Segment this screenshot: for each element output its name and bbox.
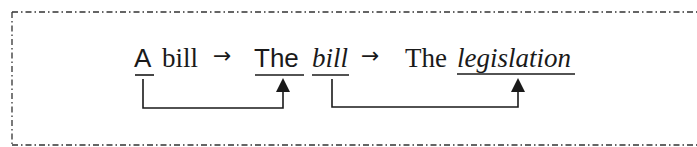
arrowhead-icon (276, 78, 290, 92)
arrowhead-icon (511, 78, 525, 92)
underlines (135, 74, 575, 75)
token-the-serif: The (405, 42, 447, 74)
token-bill-italic: bill (312, 42, 348, 74)
token-a: A (134, 42, 151, 74)
right-arrow-icon: → (361, 40, 379, 72)
token-legislation: legislation (457, 42, 571, 74)
frame-border (12, 12, 697, 145)
link-a-to-the (143, 78, 290, 108)
token-bill: bill (162, 42, 198, 74)
link-bill-to-legislation (332, 78, 525, 107)
right-arrow-icon: → (213, 40, 231, 72)
diagram-lines (0, 0, 697, 147)
diagram-canvas: A bill → The bill → The legislation (0, 0, 697, 147)
token-the-sans: The (254, 42, 299, 74)
